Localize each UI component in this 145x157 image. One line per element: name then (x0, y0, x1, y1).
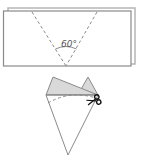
cone-figure (46, 77, 102, 155)
folded-paper-figure: 60° (4, 8, 136, 66)
cone-outline (46, 95, 98, 155)
diagram-canvas: 60° (0, 0, 145, 157)
angle-label: 60° (61, 39, 77, 49)
